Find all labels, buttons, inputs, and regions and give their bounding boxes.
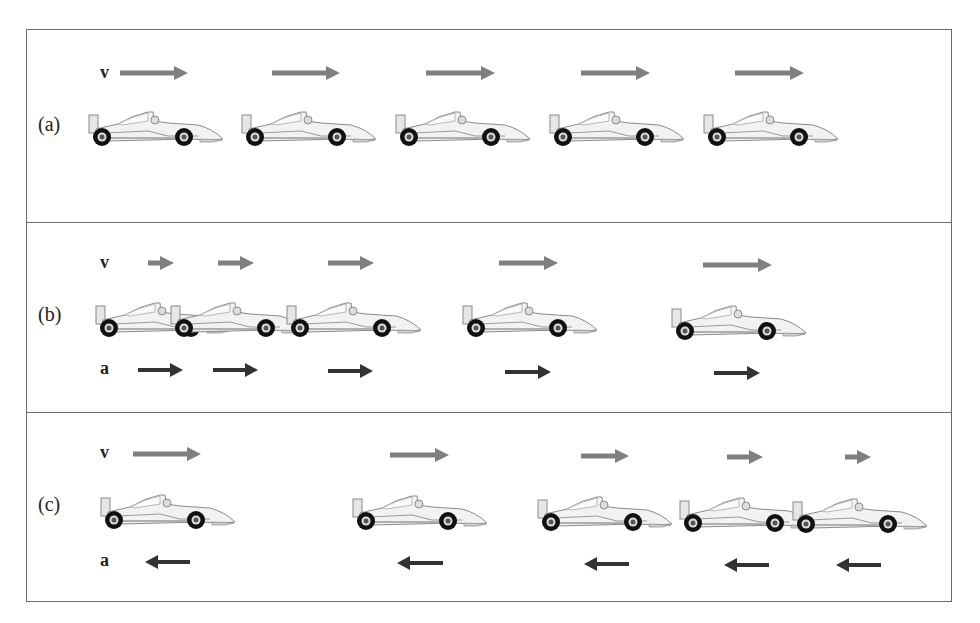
acceleration-arrow-icon [836,558,881,572]
rear-wheel-icon [708,128,726,146]
velocity-arrow-icon [581,449,629,463]
race-car [100,492,236,534]
front-wheel-icon [624,513,642,531]
velocity-arrow-icon [390,448,449,462]
rear-wheel-icon [676,322,694,340]
rear-wheel-icon [246,128,264,146]
rear-wheel-icon [400,128,418,146]
velocity-arrow-icon [328,256,374,270]
front-wheel-icon [373,319,391,337]
race-car [703,109,839,151]
velocity-arrow-icon [426,66,495,80]
race-car [241,109,377,151]
race-car-icon [792,496,928,538]
panel-divider-ab [26,222,952,223]
front-wheel-icon [758,322,776,340]
velocity-arrow-icon [703,258,772,272]
front-wheel-icon [257,319,275,337]
rear-wheel-icon [797,515,815,533]
acceleration-arrow-icon [397,556,443,570]
race-car [549,109,685,151]
velocity-arrow-icon [735,66,804,80]
race-car [792,496,928,538]
rear-wheel-icon [100,319,118,337]
rear-wheel-icon [684,514,702,532]
race-car [286,300,422,342]
acceleration-arrow-icon [138,363,183,377]
acceleration-arrow-icon [505,365,551,379]
rear-wheel-icon [357,512,375,530]
rear-wheel-icon [554,128,572,146]
front-wheel-icon [636,128,654,146]
front-wheel-icon [187,511,205,529]
race-car-icon [352,493,488,535]
velocity-arrow-icon [218,256,254,270]
acceleration-label-b: a [100,358,109,379]
panel-label-c: (c) [38,493,60,516]
velocity-arrow-icon [120,66,188,80]
race-car [352,493,488,535]
velocity-label-b: v [100,252,109,273]
race-car-icon [462,300,598,342]
front-wheel-icon [790,128,808,146]
race-car-icon [100,492,236,534]
race-car-icon [703,109,839,151]
rear-wheel-icon [291,319,309,337]
panel-divider-bc [26,412,952,413]
velocity-arrow-icon [499,256,558,270]
acceleration-arrow-icon [584,557,629,571]
race-car [671,303,807,345]
race-car-icon [671,303,807,345]
race-car-icon [88,109,224,151]
panel-label-b: (b) [38,303,61,326]
acceleration-arrow-icon [145,555,190,569]
race-car [462,300,598,342]
acceleration-arrow-icon [714,366,760,380]
acceleration-arrow-icon [213,363,258,377]
acceleration-label-c: a [100,550,109,571]
front-wheel-icon [549,319,567,337]
velocity-label-a: v [100,62,109,83]
velocity-arrow-icon [727,450,763,464]
rear-wheel-icon [105,511,123,529]
velocity-arrow-icon [272,66,340,80]
race-car [395,109,531,151]
rear-wheel-icon [542,513,560,531]
panel-label-a: (a) [38,113,60,136]
race-car [88,109,224,151]
velocity-arrow-icon [581,66,650,80]
front-wheel-icon [482,128,500,146]
front-wheel-icon [879,515,897,533]
front-wheel-icon [766,514,784,532]
rear-wheel-icon [93,128,111,146]
front-wheel-icon [175,128,193,146]
acceleration-arrow-icon [724,558,769,572]
rear-wheel-icon [175,319,193,337]
acceleration-arrow-icon [328,364,373,378]
race-car-icon [549,109,685,151]
velocity-arrow-icon [845,450,871,464]
velocity-arrow-icon [148,256,174,270]
velocity-arrow-icon [133,447,201,461]
front-wheel-icon [328,128,346,146]
race-car-icon [537,494,673,536]
race-car-icon [286,300,422,342]
velocity-label-c: v [100,442,109,463]
race-car-icon [395,109,531,151]
rear-wheel-icon [467,319,485,337]
race-car-icon [241,109,377,151]
race-car [537,494,673,536]
front-wheel-icon [439,512,457,530]
